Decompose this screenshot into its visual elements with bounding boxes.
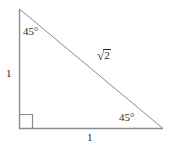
right-angle-marker-icon <box>20 115 33 129</box>
side-label-hypotenuse: √2 <box>97 49 111 62</box>
triangle-graphic <box>0 0 172 151</box>
angle-label-bottom-right: 45° <box>119 112 134 123</box>
angle-label-top: 45° <box>23 26 38 37</box>
side-label-left-leg: 1 <box>6 68 12 79</box>
radicand-value: 2 <box>103 49 111 61</box>
radical-expression: √2 <box>97 49 111 62</box>
hypotenuse-line <box>20 9 164 129</box>
triangle-diagram: 45° 45° 1 1 √2 <box>0 0 172 151</box>
side-label-bottom-leg: 1 <box>87 132 93 143</box>
